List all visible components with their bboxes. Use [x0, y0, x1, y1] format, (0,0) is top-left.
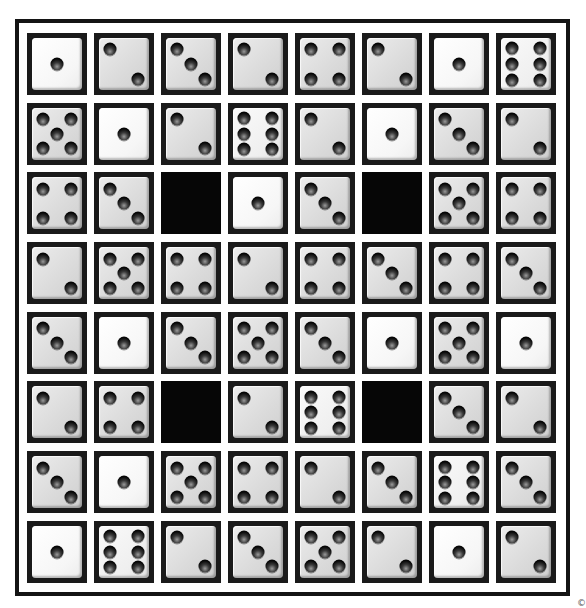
- blocked-cell[interactable]: [161, 172, 221, 234]
- die-cell[interactable]: [496, 242, 556, 304]
- pip-icon: [333, 490, 346, 503]
- die-cell[interactable]: [228, 103, 288, 165]
- die-cell[interactable]: [94, 172, 154, 234]
- die-cell[interactable]: [94, 381, 154, 443]
- die-cell[interactable]: [228, 451, 288, 513]
- die-cell[interactable]: [295, 312, 355, 374]
- pip-icon: [266, 560, 279, 573]
- pip-icon: [439, 211, 452, 224]
- die-cell[interactable]: [295, 381, 355, 443]
- die-cell[interactable]: [161, 521, 221, 583]
- die-cell[interactable]: [161, 312, 221, 374]
- die-cell[interactable]: [228, 312, 288, 374]
- pip-icon: [520, 336, 533, 349]
- die-four-icon: [496, 172, 556, 234]
- pip-icon: [439, 113, 452, 126]
- die-cell[interactable]: [228, 521, 288, 583]
- pip-icon: [252, 197, 265, 210]
- die-six-icon: [228, 103, 288, 165]
- die-cell[interactable]: [94, 242, 154, 304]
- die-cell[interactable]: [94, 312, 154, 374]
- die-cell[interactable]: [161, 242, 221, 304]
- die-cell[interactable]: [429, 521, 489, 583]
- pip-icon: [266, 322, 279, 335]
- pip-icon: [238, 143, 251, 156]
- die-cell[interactable]: [27, 521, 87, 583]
- die-cell[interactable]: [496, 451, 556, 513]
- pip-icon: [372, 252, 385, 265]
- pip-icon: [305, 113, 318, 126]
- die-cell[interactable]: [94, 521, 154, 583]
- die-cell[interactable]: [429, 103, 489, 165]
- die-cell[interactable]: [27, 33, 87, 95]
- pip-icon: [65, 182, 78, 195]
- pip-icon: [238, 252, 251, 265]
- die-cell[interactable]: [295, 172, 355, 234]
- die-cell[interactable]: [429, 451, 489, 513]
- die-cell[interactable]: [94, 103, 154, 165]
- die-face: [99, 177, 149, 229]
- pip-icon: [185, 336, 198, 349]
- die-face: [300, 386, 350, 438]
- die-face: [501, 526, 551, 578]
- die-cell[interactable]: [362, 33, 422, 95]
- die-cell[interactable]: [27, 451, 87, 513]
- die-cell[interactable]: [27, 172, 87, 234]
- die-cell[interactable]: [228, 381, 288, 443]
- blocked-cell[interactable]: [161, 381, 221, 443]
- die-cell[interactable]: [228, 172, 288, 234]
- die-cell[interactable]: [295, 521, 355, 583]
- die-cell[interactable]: [362, 103, 422, 165]
- die-cell[interactable]: [496, 521, 556, 583]
- die-cell[interactable]: [429, 381, 489, 443]
- pip-icon: [104, 281, 117, 294]
- die-cell[interactable]: [161, 33, 221, 95]
- pip-icon: [506, 42, 519, 55]
- die-cell[interactable]: [228, 242, 288, 304]
- pip-icon: [520, 476, 533, 489]
- die-cell[interactable]: [429, 172, 489, 234]
- die-face: [166, 38, 216, 90]
- die-cell[interactable]: [94, 33, 154, 95]
- die-cell[interactable]: [228, 33, 288, 95]
- pip-icon: [118, 127, 131, 140]
- die-cell[interactable]: [429, 242, 489, 304]
- die-three-icon: [27, 312, 87, 374]
- die-cell[interactable]: [94, 451, 154, 513]
- die-cell[interactable]: [496, 172, 556, 234]
- die-cell[interactable]: [496, 103, 556, 165]
- pip-icon: [453, 406, 466, 419]
- die-two-icon: [27, 242, 87, 304]
- die-cell[interactable]: [362, 521, 422, 583]
- die-cell[interactable]: [27, 103, 87, 165]
- die-two-icon: [161, 103, 221, 165]
- die-cell[interactable]: [27, 312, 87, 374]
- die-five-icon: [94, 242, 154, 304]
- die-face: [501, 456, 551, 508]
- die-cell[interactable]: [429, 312, 489, 374]
- die-cell[interactable]: [295, 33, 355, 95]
- die-cell[interactable]: [496, 33, 556, 95]
- die-cell[interactable]: [429, 33, 489, 95]
- die-cell[interactable]: [27, 242, 87, 304]
- die-cell[interactable]: [496, 312, 556, 374]
- die-cell[interactable]: [496, 381, 556, 443]
- die-cell[interactable]: [295, 103, 355, 165]
- die-cell[interactable]: [27, 381, 87, 443]
- pip-icon: [333, 252, 346, 265]
- pip-icon: [238, 351, 251, 364]
- die-cell[interactable]: [362, 312, 422, 374]
- die-cell[interactable]: [161, 103, 221, 165]
- die-cell[interactable]: [362, 451, 422, 513]
- blocked-cell[interactable]: [362, 172, 422, 234]
- blocked-cell[interactable]: [362, 381, 422, 443]
- die-cell[interactable]: [295, 451, 355, 513]
- die-cell[interactable]: [161, 451, 221, 513]
- die-cell[interactable]: [295, 242, 355, 304]
- die-four-icon: [94, 381, 154, 443]
- die-two-icon: [362, 521, 422, 583]
- pip-icon: [319, 197, 332, 210]
- pip-icon: [185, 476, 198, 489]
- die-cell[interactable]: [362, 242, 422, 304]
- pip-icon: [467, 211, 480, 224]
